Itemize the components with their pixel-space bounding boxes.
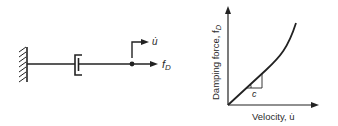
damper-diagram: u̇ fD c Velocity, u̇ Damping force, fD	[0, 0, 338, 126]
force-label: fD	[162, 58, 171, 72]
force-arrow-icon	[150, 61, 158, 67]
x-axis-arrow-icon	[311, 102, 319, 108]
y-axis-arrow-icon	[225, 6, 231, 14]
chart-axes	[228, 12, 313, 105]
y-axis-label: Damping force, fD	[210, 24, 223, 100]
damping-curve	[228, 23, 296, 105]
dashpot-icon	[75, 55, 82, 75]
x-axis-label: Velocity, u̇	[252, 111, 295, 122]
slope-label: c	[252, 89, 257, 99]
fixed-wall-icon	[19, 47, 27, 82]
velocity-arrow-icon	[132, 39, 149, 58]
mass-point	[130, 62, 135, 67]
velocity-label: u̇	[152, 36, 158, 47]
